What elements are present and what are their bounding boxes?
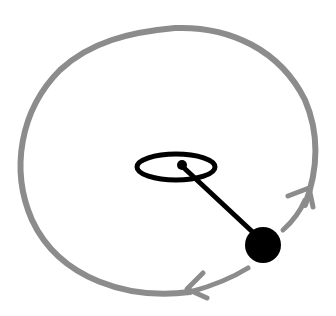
pendulum-bob bbox=[245, 227, 281, 263]
background bbox=[0, 0, 336, 316]
pendulum-diagram bbox=[0, 0, 336, 316]
